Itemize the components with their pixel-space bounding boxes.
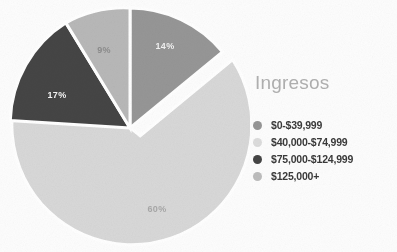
slice-label-17pct: 17%: [48, 90, 67, 100]
legend-label-2: $75,000-$124,999: [271, 153, 353, 165]
legend-label-3: $125,000+: [271, 170, 319, 182]
slice-label-60pct: 60%: [148, 204, 167, 214]
legend-list: $0-$39,999 $40,000-$74,999 $75,000-$124,…: [250, 117, 397, 185]
legend-item-2[interactable]: $75,000-$124,999: [250, 151, 397, 167]
legend-swatch-icon-3: [253, 172, 262, 181]
chart-title: Ingresos: [255, 72, 329, 94]
legend-panel: Ingresos $0-$39,999 $40,000-$74,999 $75,…: [250, 0, 397, 252]
legend-item-3[interactable]: $125,000+: [250, 168, 397, 184]
chart-plot-area: 14% 60% 17% 9%: [0, 0, 250, 252]
legend-swatch-icon-1: [253, 138, 262, 147]
pie-chart-figure: 14% 60% 17% 9% Ingresos $0-$39,999 $40,0…: [0, 0, 397, 252]
pie-svg: 14% 60% 17% 9%: [0, 0, 250, 252]
legend-item-1[interactable]: $40,000-$74,999: [250, 134, 397, 150]
slice-label-14pct: 14%: [156, 41, 175, 51]
legend-label-1: $40,000-$74,999: [271, 136, 347, 148]
legend-swatch-icon-0: [253, 121, 262, 130]
legend-item-0[interactable]: $0-$39,999: [250, 117, 397, 133]
legend-label-0: $0-$39,999: [271, 119, 322, 131]
slice-label-9pct: 9%: [97, 45, 111, 55]
legend-swatch-icon-2: [253, 155, 262, 164]
